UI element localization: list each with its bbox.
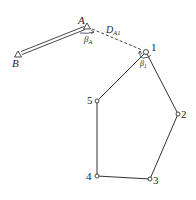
- label-B: B: [12, 57, 19, 69]
- label-point-1: 1: [151, 41, 157, 53]
- traverse-point-4-icon: [95, 174, 99, 178]
- label-D-A1: DA1: [105, 24, 120, 36]
- traverse-point-2-icon: [176, 112, 180, 116]
- label-point-4: 4: [86, 170, 92, 182]
- label-beta-1: β1: [139, 59, 147, 69]
- beta-A-subscript: A: [87, 39, 92, 45]
- known-line-BA: [21, 27, 85, 55]
- traverse-point-3-icon: [148, 177, 152, 181]
- label-point-5: 5: [87, 94, 93, 106]
- label-beta-A: βA: [83, 34, 92, 45]
- beta-1-subscript: 1: [144, 63, 147, 69]
- arrowhead-beta-A: [91, 30, 94, 34]
- label-point-3: 3: [153, 174, 159, 186]
- label-A: A: [77, 14, 85, 26]
- traverse-diagram: A B βA DA1 β1 1 2 3 4 5: [0, 0, 196, 200]
- traverse-point-5-icon: [95, 99, 99, 103]
- label-point-2: 2: [181, 108, 187, 120]
- traverse-point-1-icon: [144, 50, 149, 55]
- traverse-polygon: [97, 52, 178, 179]
- D-subscript: A1: [112, 29, 120, 36]
